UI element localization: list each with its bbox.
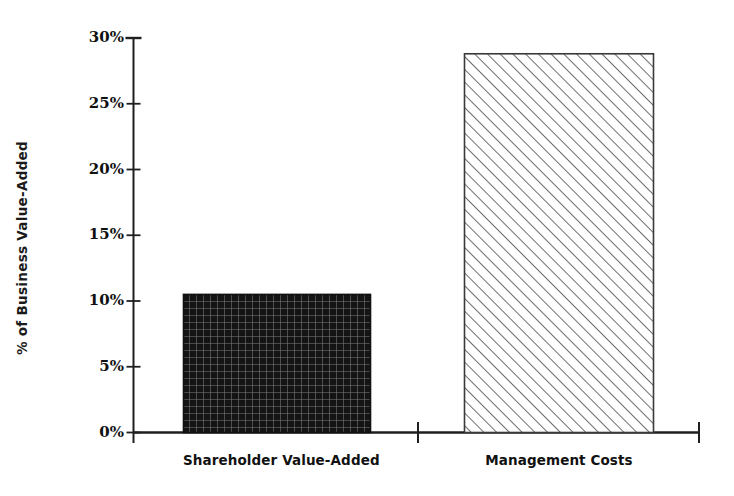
x-axis-label-shareholder-value-added: Shareholder Value-Added (183, 452, 373, 468)
bar-chart: % of Business Value-Added 0%5%10%15%20%2… (0, 0, 734, 496)
bar-shareholder-value-added (184, 294, 371, 432)
plot-area (0, 0, 734, 496)
x-axis-label-management-costs: Management Costs (464, 452, 654, 468)
bar-series (184, 54, 654, 433)
bar-management-costs (465, 54, 654, 433)
